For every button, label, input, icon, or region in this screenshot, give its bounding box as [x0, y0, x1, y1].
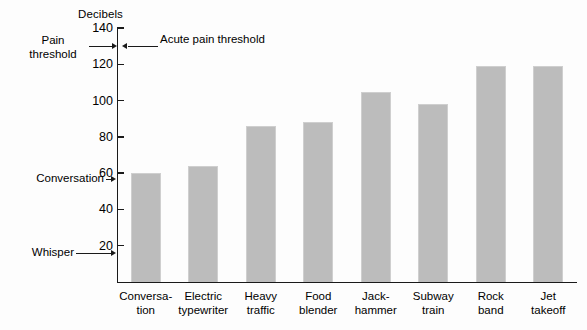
y-tick-mark: [117, 27, 124, 28]
y-tick-label: 40: [85, 202, 113, 216]
bar: [361, 92, 391, 283]
bar: [476, 66, 506, 282]
bar: [188, 166, 218, 282]
pain-threshold-label: Pain threshold: [20, 34, 86, 61]
y-tick-mark: [117, 136, 124, 137]
whisper-annotation-arrowhead-icon: [111, 250, 116, 256]
whisper-annotation-leader: [76, 253, 112, 254]
acute-pain-threshold-arrowhead-icon: [122, 43, 127, 49]
y-tick-label: 140: [85, 21, 113, 35]
y-tick-label: 20: [85, 239, 113, 253]
bar: [533, 66, 563, 282]
conversation-annotation-label: Conversation: [8, 172, 104, 186]
x-axis-category-label: Jet takeoff: [510, 290, 586, 317]
y-tick-mark: [117, 209, 124, 210]
bar: [418, 104, 448, 282]
acute-pain-threshold-label: Acute pain threshold: [160, 33, 265, 46]
y-tick-label: 80: [85, 130, 113, 144]
conversation-annotation-arrowhead-icon: [111, 176, 116, 182]
pain-threshold-arrowhead-icon: [112, 43, 117, 49]
bar: [131, 173, 161, 282]
y-tick-mark: [117, 100, 124, 101]
pain-threshold-leader: [89, 46, 113, 47]
y-tick-mark: [117, 245, 124, 246]
y-axis-title: Decibels: [78, 8, 123, 20]
decibel-bar-chart: Decibels 20406080100120140 Conversa- tio…: [0, 0, 587, 330]
y-tick-label: 100: [85, 94, 113, 108]
y-tick-mark: [117, 64, 124, 65]
bar: [303, 122, 333, 282]
y-tick-label: 120: [85, 57, 113, 71]
y-tick-mark: [117, 172, 124, 173]
bar: [246, 126, 276, 282]
whisper-annotation-label: Whisper: [8, 246, 74, 260]
x-axis-line: [117, 282, 577, 283]
acute-pain-threshold-leader: [128, 46, 158, 47]
